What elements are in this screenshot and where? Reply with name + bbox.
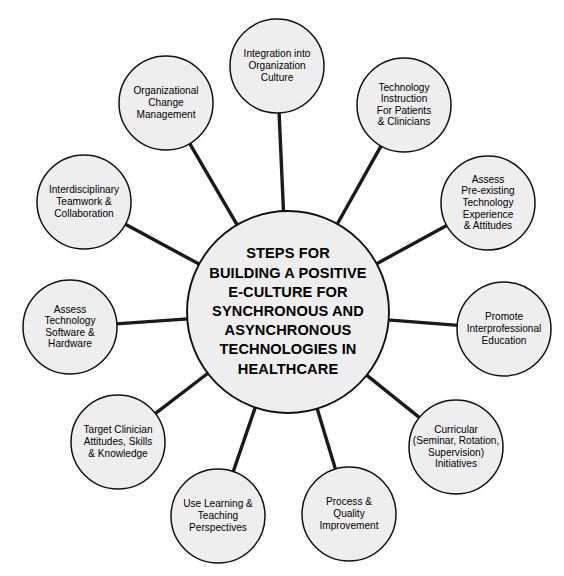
text-line: Assess [472,173,505,184]
satellite-node-target-clinician-attitudes-skills-knowledge[interactable]: Target ClinicianAttitudes, Skills& Knowl… [71,395,165,489]
text-line: Use Learning & [183,498,253,509]
text-line: Target Clinician [83,424,152,435]
text-line: Promote [485,311,524,322]
text-line: Teamwork & [56,196,112,207]
satellite-node-assess-pre-existing-technology-experience-attitudes[interactable]: AssessPre-existingTechnologyExperience& … [441,156,535,250]
spoke-connector [366,375,420,419]
text-line: Initiatives [435,458,477,469]
satellite-node-organizational-change-management[interactable]: OrganizationalChangeManagement [119,56,213,150]
spoke-connector [189,143,237,226]
text-line: & Clinicians [378,116,431,127]
spoke-connector [317,408,336,470]
satellite-node-curricular-seminar-rotation-supervision-initiatives[interactable]: Curricular(Seminar, Rotation,Supervision… [409,400,503,494]
satellite-node-use-learning-teaching-perspectives[interactable]: Use Learning &TeachingPerspectives [171,469,265,563]
text-line: Organizational [133,85,198,96]
text-line: Interdisciplinary [49,184,120,195]
text-line: Pre-existing [461,185,514,196]
text-line: Technology [378,81,430,92]
hub-and-spoke-diagram: Integration intoOrganizationCultureTechn… [0,0,564,576]
node-label: TechnologyInstructionFor Patients& Clini… [377,81,431,127]
spoke-connector [388,320,458,326]
satellite-node-assess-technology-software-hardware[interactable]: AssessTechnologySoftware &Hardware [23,280,117,374]
text-line: Quality [333,508,365,519]
spoke-connector [376,225,448,264]
text-line: Curricular [434,423,478,434]
text-line: (Seminar, Rotation, [413,435,499,446]
text-line: Experience [463,208,514,219]
text-line: & Attitudes [464,220,512,231]
text-line: Education [482,334,527,345]
text-line: Organization [248,60,305,71]
text-line: E-CULTURE FOR [228,284,348,300]
text-line: ASYNCHRONOUS [225,322,352,338]
text-line: For Patients [377,104,431,115]
text-line: Improvement [320,519,379,530]
text-line: Instruction [381,93,428,104]
text-line: Hardware [48,338,92,349]
spoke-connector [124,224,199,265]
text-line: HEALTHCARE [238,360,339,376]
text-line: STEPS FOR [246,245,330,261]
spoke-connector [337,145,382,225]
satellite-node-process-quality-improvement[interactable]: Process &QualityImprovement [302,467,396,561]
text-line: Process & [326,496,372,507]
text-line: Perspectives [189,521,247,532]
text-line: Technology [462,197,514,208]
node-label: Target ClinicianAttitudes, Skills& Knowl… [83,424,152,458]
center-label: STEPS FORBUILDING A POSITIVEE-CULTURE FO… [209,245,366,376]
satellite-node-integration-into-organization-culture[interactable]: Integration intoOrganizationCulture [230,19,324,113]
text-line: & Knowledge [88,447,148,458]
spoke-connector [279,112,283,212]
text-line: TECHNOLOGIES IN [220,341,357,357]
text-line: Supervision) [428,446,484,457]
text-line: Attitudes, Skills [84,436,152,447]
central-hub-central-hub[interactable]: STEPS FORBUILDING A POSITIVEE-CULTURE FO… [187,211,389,413]
text-line: Culture [261,71,294,82]
text-line: Technology [44,315,96,326]
spoke-connector [155,373,209,414]
satellite-node-technology-instruction-for-patients-clinicians[interactable]: TechnologyInstructionFor Patients& Clini… [357,58,451,152]
text-line: SYNCHRONOUS AND [212,303,364,319]
text-line: Integration into [244,48,311,59]
text-line: Assess [54,303,87,314]
text-line: Change [148,97,184,108]
text-line: Management [137,108,196,119]
spoke-connector [233,407,256,473]
text-line: Collaboration [54,207,113,218]
text-line: Teaching [198,510,238,521]
text-line: Interprofessional [467,323,542,334]
satellite-node-interdisciplinary-teamwork-collaboration[interactable]: InterdisciplinaryTeamwork &Collaboration [37,155,131,249]
text-line: BUILDING A POSITIVE [209,264,366,280]
text-line: Software & [45,326,95,337]
satellite-node-promote-interprofessional-education[interactable]: PromoteInterprofessionalEducation [457,282,551,376]
diagram-canvas: Integration intoOrganizationCultureTechn… [0,0,564,576]
spoke-connector [116,319,188,324]
central-hub-group: STEPS FORBUILDING A POSITIVEE-CULTURE FO… [187,211,389,413]
node-label: InterdisciplinaryTeamwork &Collaboration [49,184,120,218]
